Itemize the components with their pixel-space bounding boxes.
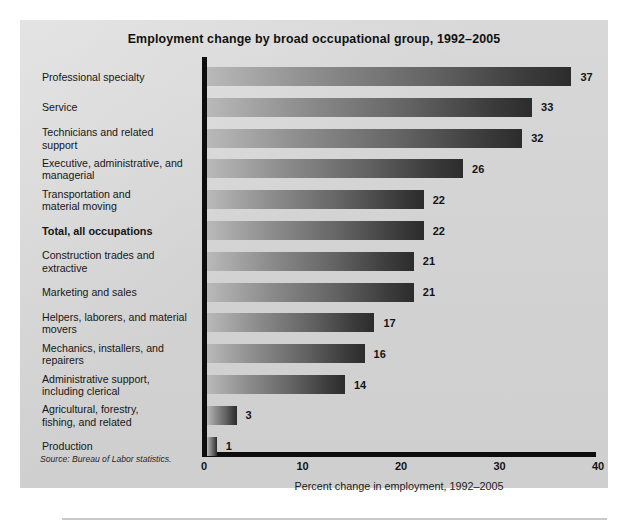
bar-value-label: 37 bbox=[580, 71, 592, 83]
bar-track: 21 bbox=[207, 283, 601, 302]
bar-row: Helpers, laborers, and materialmovers17 bbox=[20, 307, 608, 338]
bar bbox=[207, 129, 522, 148]
bar bbox=[207, 159, 463, 178]
bar bbox=[207, 313, 374, 332]
bar-value-label: 33 bbox=[541, 101, 553, 113]
bar-row: Professional specialty37 bbox=[20, 61, 608, 92]
bar-value-label: 32 bbox=[531, 132, 543, 144]
bar-row: Transportation andmaterial moving22 bbox=[20, 184, 608, 215]
bar-category-label: Administrative support,including clerica… bbox=[42, 372, 194, 397]
bottom-divider-rule bbox=[62, 518, 607, 520]
bar-value-label: 22 bbox=[433, 194, 445, 206]
x-tick-label: 20 bbox=[381, 460, 421, 472]
bar bbox=[207, 221, 424, 240]
bar-category-label: Construction trades andextractive bbox=[42, 249, 194, 274]
bar-row: Agricultural, forestry,fishing, and rela… bbox=[20, 400, 608, 431]
bar-track: 14 bbox=[207, 375, 601, 394]
bar-row: Marketing and sales21 bbox=[20, 277, 608, 308]
bar-track: 1 bbox=[207, 437, 601, 456]
bar-category-label: Transportation andmaterial moving bbox=[42, 187, 194, 212]
bar-chart-plot-area: Professional specialty37Service33Technic… bbox=[20, 20, 608, 488]
bar-value-label: 1 bbox=[226, 440, 232, 452]
bar bbox=[207, 283, 414, 302]
bar-row: Mechanics, installers, andrepairers16 bbox=[20, 338, 608, 369]
x-tick-label: 10 bbox=[283, 460, 323, 472]
bar-track: 21 bbox=[207, 252, 601, 271]
bar bbox=[207, 98, 532, 117]
bar-category-label: Mechanics, installers, andrepairers bbox=[42, 341, 194, 366]
bar-track: 33 bbox=[207, 98, 601, 117]
x-tick-label: 0 bbox=[184, 460, 224, 472]
bar-track: 3 bbox=[207, 406, 601, 425]
bar bbox=[207, 375, 345, 394]
x-axis-title: Percent change in employment, 1992–2005 bbox=[202, 480, 596, 492]
bar-row: Service33 bbox=[20, 92, 608, 123]
bar-row: Executive, administrative, andmanagerial… bbox=[20, 153, 608, 184]
bar-track: 17 bbox=[207, 313, 601, 332]
bar-category-label: Total, all occupations bbox=[42, 224, 194, 236]
bar-category-label: Agricultural, forestry,fishing, and rela… bbox=[42, 403, 194, 428]
bar-value-label: 22 bbox=[433, 225, 445, 237]
bar-category-label: Production bbox=[42, 440, 194, 452]
bar-category-label: Helpers, laborers, and materialmovers bbox=[42, 310, 194, 335]
bar-row: Technicians and relatedsupport32 bbox=[20, 123, 608, 154]
x-tick-label: 40 bbox=[578, 460, 618, 472]
bar-category-label: Service bbox=[42, 101, 194, 113]
bar bbox=[207, 67, 571, 86]
bar-track: 32 bbox=[207, 129, 601, 148]
bar-category-label: Executive, administrative, andmanagerial bbox=[42, 156, 194, 181]
bar bbox=[207, 252, 414, 271]
bar-track: 22 bbox=[207, 221, 601, 240]
bar-value-label: 26 bbox=[472, 163, 484, 175]
source-note: Source: Bureau of Labor statistics. bbox=[40, 454, 171, 464]
bar-category-label: Marketing and sales bbox=[42, 286, 194, 298]
bar-track: 22 bbox=[207, 190, 601, 209]
bar-value-label: 14 bbox=[354, 379, 366, 391]
bar-track: 26 bbox=[207, 159, 601, 178]
bar-value-label: 21 bbox=[423, 286, 435, 298]
bar bbox=[207, 406, 237, 425]
bar-row: Construction trades andextractive21 bbox=[20, 246, 608, 277]
x-tick-label: 30 bbox=[480, 460, 520, 472]
bar-value-label: 3 bbox=[246, 409, 252, 421]
bar-value-label: 21 bbox=[423, 255, 435, 267]
bar-value-label: 17 bbox=[383, 317, 395, 329]
bar bbox=[207, 437, 217, 456]
bar-track: 37 bbox=[207, 67, 601, 86]
bar-row: Administrative support,including clerica… bbox=[20, 369, 608, 400]
bar-value-label: 16 bbox=[374, 348, 386, 360]
bar-row: Total, all occupations22 bbox=[20, 215, 608, 246]
bar-category-label: Technicians and relatedsupport bbox=[42, 126, 194, 151]
bar bbox=[207, 190, 424, 209]
figure-panel: Employment change by broad occupational … bbox=[20, 20, 608, 488]
bar-track: 16 bbox=[207, 344, 601, 363]
bar-category-label: Professional specialty bbox=[42, 70, 194, 82]
bar bbox=[207, 344, 365, 363]
